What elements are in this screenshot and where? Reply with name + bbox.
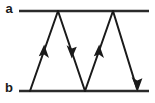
level-label-a: a <box>5 1 13 16</box>
transition-line-4 <box>113 11 137 89</box>
arrowhead-up-1 <box>39 45 49 59</box>
level-label-b: b <box>5 80 13 95</box>
transition-up-2 <box>85 11 113 91</box>
energy-level-diagram: a b <box>0 0 155 103</box>
arrowhead-up-2 <box>94 45 104 59</box>
arrowhead-down-2 <box>132 77 143 92</box>
diagram-canvas: a b <box>0 0 155 103</box>
transition-down-1 <box>58 11 85 91</box>
arrowhead-down-1 <box>67 45 77 58</box>
transition-up-1 <box>30 11 58 91</box>
transition-down-2 <box>113 11 142 92</box>
